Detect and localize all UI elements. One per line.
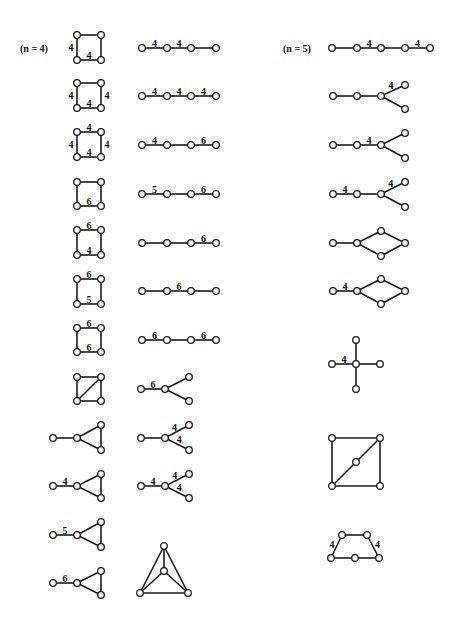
graph-n4-path-444: 444 (139, 86, 220, 100)
vertex (139, 191, 146, 198)
edge (165, 377, 189, 389)
edge (381, 194, 405, 207)
vertex (353, 337, 360, 344)
edge-label: 4 (87, 122, 92, 133)
coxeter-graphs-figure: (n = 4) (n = 5) 444444444444444665664665… (0, 0, 457, 633)
graph-n4-square-444: 444 (69, 80, 110, 112)
edge (77, 535, 101, 547)
edge-label: 6 (201, 135, 206, 146)
edge-label: 4 (152, 38, 157, 49)
edge-label: 4 (87, 50, 92, 61)
vertex (352, 555, 359, 562)
vertex (164, 240, 171, 247)
vertex (185, 590, 192, 597)
graph-n4-square-diagonal (74, 374, 105, 405)
vertex (186, 447, 193, 454)
vertex (354, 191, 361, 198)
edge-label: 4 (367, 135, 372, 146)
edge-label: 4 (343, 281, 348, 292)
group-label-n4: (n = 4) (20, 43, 48, 55)
edge (381, 133, 405, 145)
vertex (74, 179, 81, 186)
vertex (74, 349, 81, 356)
vertex (74, 203, 81, 210)
edge-label: 4 (63, 476, 68, 487)
vertex (98, 105, 105, 112)
edge (77, 571, 101, 583)
vertex (213, 240, 220, 247)
vertex (74, 227, 81, 234)
edge-label: 4 (388, 178, 393, 189)
vertex (74, 276, 81, 283)
edge-label: 4 (69, 90, 74, 101)
graphs-layer: 4444444444444446656646656666664444445644… (50, 32, 434, 599)
vertex (98, 325, 105, 332)
vertex (402, 288, 409, 295)
edge-label: 6 (201, 330, 206, 341)
edge-label: 4 (388, 80, 393, 91)
edge-label: 6 (87, 220, 92, 231)
graph-n4-square-44: 44 (69, 32, 105, 64)
vertex (378, 276, 385, 283)
vertex (98, 568, 105, 575)
vertex (213, 93, 220, 100)
edge-label: 4 (87, 147, 92, 158)
vertex (378, 301, 385, 308)
vertex (74, 398, 81, 405)
edge (77, 438, 101, 450)
edge-label: 4 (177, 482, 182, 493)
vertex (330, 93, 337, 100)
vertex (376, 555, 383, 562)
vertex (139, 45, 146, 52)
vertex (188, 191, 195, 198)
vertex (354, 240, 361, 247)
graph-n4-fork-444: 444 (138, 470, 193, 501)
vertex (98, 447, 105, 454)
graph-n5-fork-4: 4 (330, 80, 409, 112)
vertex (402, 155, 409, 162)
vertex (139, 288, 146, 295)
edge-label: 6 (177, 281, 182, 292)
graph-n5-cross-4: 4 (329, 337, 384, 393)
vertex (98, 154, 105, 161)
graph-n4-path-44: 44 (139, 38, 220, 52)
vertex (329, 45, 336, 52)
vertex (353, 386, 360, 393)
edge (381, 231, 405, 243)
vertex (98, 544, 105, 551)
edge-label: 4 (177, 434, 182, 445)
vertex (328, 555, 335, 562)
vertex (402, 106, 409, 113)
vertex (188, 240, 195, 247)
vertex (188, 337, 195, 344)
graph-n4-fork-44: 44 (138, 422, 193, 454)
vertex (164, 142, 171, 149)
edge-label: 4 (69, 42, 74, 53)
graph-n4-path-66: 66 (139, 330, 220, 344)
vertex (98, 227, 105, 234)
vertex (74, 580, 81, 587)
vertex (330, 142, 337, 149)
vertex (98, 301, 105, 308)
vertex (330, 191, 337, 198)
vertex (139, 240, 146, 247)
vertex (186, 495, 193, 502)
vertex (98, 203, 105, 210)
edge-label: 4 (201, 86, 206, 97)
graph-n5-fork-mid4: 4 (330, 130, 409, 162)
vertex (74, 483, 81, 490)
vertex (378, 253, 385, 260)
vertex (353, 361, 360, 368)
edge (77, 486, 101, 498)
vertex (98, 495, 105, 502)
vertex (402, 82, 409, 89)
graph-n4-square-64: 64 (74, 220, 105, 259)
edge-label: 4 (177, 38, 182, 49)
edge-label: 6 (87, 342, 92, 353)
vertex (213, 337, 220, 344)
edge-label: 6 (152, 330, 157, 341)
vertex (354, 288, 361, 295)
edge (357, 243, 381, 256)
vertex (98, 374, 105, 381)
vertex (364, 532, 371, 539)
